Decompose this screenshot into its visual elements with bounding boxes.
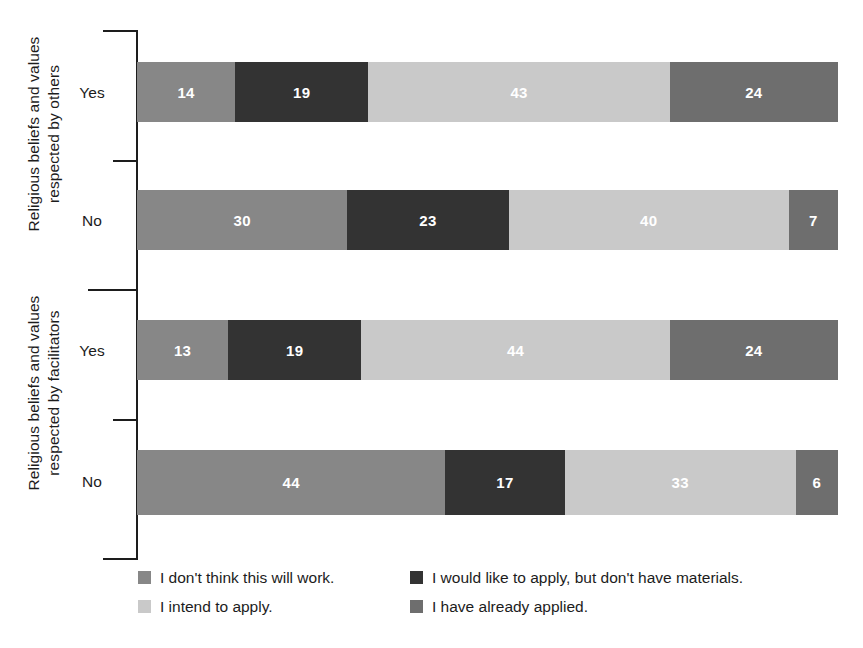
category-label-yes-others: Yes: [55, 84, 129, 102]
y-axis-tick-group-divider: [88, 289, 138, 291]
legend-item[interactable]: I have already applied.: [410, 592, 838, 621]
bar-segment-value: 30: [234, 212, 251, 229]
legend-swatch-icon: [138, 600, 151, 613]
legend-item[interactable]: I intend to apply.: [138, 592, 410, 621]
y-axis-tick-separator-1: [113, 160, 138, 162]
bar-segment: 6: [796, 450, 838, 515]
bar-segment-value: 33: [672, 474, 689, 491]
bar-segment: 13: [137, 320, 228, 380]
legend-item[interactable]: I don't think this will work.: [138, 563, 410, 592]
bar-segment: 44: [137, 450, 445, 515]
bar-segment: 43: [368, 62, 669, 122]
bar-segment-value: 19: [286, 342, 303, 359]
bar-segment: 7: [789, 190, 838, 250]
legend-item[interactable]: I would like to apply, but don't have ma…: [410, 563, 838, 592]
bar-segment: 19: [235, 62, 368, 122]
bar-segment-value: 24: [745, 342, 762, 359]
legend-swatch-icon: [138, 571, 151, 584]
bar-segment: 14: [137, 62, 235, 122]
category-label-no-others: No: [55, 212, 129, 230]
y-axis-tick-top: [103, 30, 138, 32]
legend-label: I have already applied.: [432, 598, 588, 616]
bar-segment: 24: [670, 62, 838, 122]
bar-row: 4417336: [137, 450, 838, 515]
category-label-no-facilitators: No: [55, 473, 129, 491]
legend-swatch-icon: [410, 600, 423, 613]
bar-row: 3023407: [137, 190, 838, 250]
y-axis-tick-separator-2: [113, 419, 138, 421]
bar-segment: 19: [228, 320, 361, 380]
bar-segment: 23: [347, 190, 508, 250]
bar-segment: 33: [565, 450, 796, 515]
bar-segment: 44: [361, 320, 669, 380]
bar-segment-value: 7: [809, 212, 818, 229]
bar-segment-value: 24: [745, 84, 762, 101]
bar-segment-value: 13: [174, 342, 191, 359]
stacked-bar-chart: Religious beliefs and values respected b…: [0, 0, 863, 648]
bar-segment-value: 44: [507, 342, 524, 359]
bar-segment-value: 6: [813, 474, 822, 491]
bar-segment: 17: [445, 450, 564, 515]
bar-segment: 24: [670, 320, 838, 380]
bar-segment-value: 40: [640, 212, 657, 229]
y-axis-tick-bottom: [103, 558, 138, 560]
bar-segment-value: 43: [510, 84, 527, 101]
chart-legend: I don't think this will work.I would lik…: [138, 563, 838, 621]
bar-segment-value: 14: [177, 84, 194, 101]
bar-segment: 30: [137, 190, 347, 250]
legend-label: I don't think this will work.: [160, 569, 334, 587]
legend-label: I would like to apply, but don't have ma…: [432, 569, 743, 587]
bar-row: 13194424: [137, 320, 838, 380]
bar-row: 14194324: [137, 62, 838, 122]
bar-segment-value: 44: [283, 474, 300, 491]
legend-swatch-icon: [410, 571, 423, 584]
category-label-yes-facilitators: Yes: [55, 342, 129, 360]
bar-segment: 40: [509, 190, 789, 250]
bar-segment-value: 23: [419, 212, 436, 229]
legend-label: I intend to apply.: [160, 598, 273, 616]
bar-segment-value: 17: [496, 474, 513, 491]
bar-segment-value: 19: [293, 84, 310, 101]
